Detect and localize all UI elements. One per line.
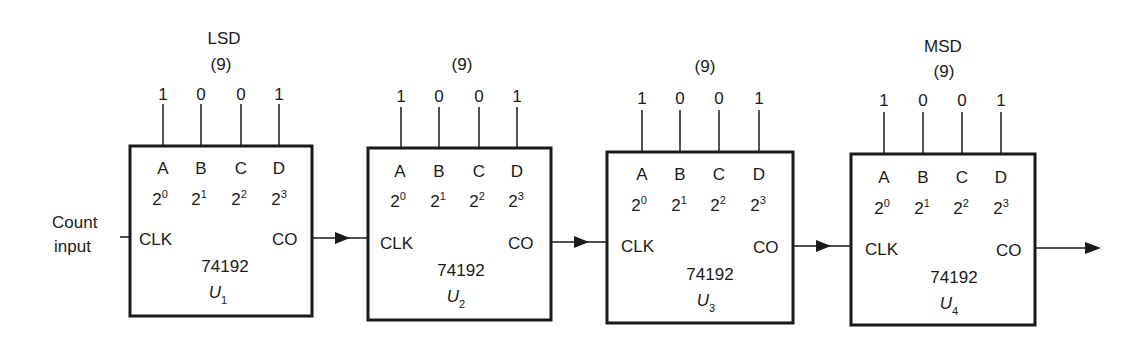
bit-values: 1 0 0 1 (158, 85, 283, 104)
svg-text:D: D (511, 162, 523, 181)
co-label: CO (508, 234, 534, 253)
part-number: 74192 (930, 268, 977, 287)
bit-values: 1 0 0 1 (637, 89, 763, 108)
svg-text:21: 21 (430, 190, 446, 211)
svg-text:0: 0 (474, 87, 483, 106)
svg-text:20: 20 (631, 194, 647, 215)
svg-text:1: 1 (996, 91, 1005, 110)
svg-text:A: A (394, 162, 406, 181)
svg-text:D: D (753, 165, 765, 184)
co-label: CO (272, 230, 298, 249)
svg-text:0: 0 (957, 91, 966, 110)
count-input-label: Count input (52, 213, 98, 256)
svg-text:20: 20 (152, 188, 168, 209)
svg-text:0: 0 (434, 87, 443, 106)
carry-connection-2 (551, 236, 607, 248)
arrow-icon (335, 232, 350, 244)
svg-text:1: 1 (274, 85, 283, 104)
part-number: 74192 (201, 257, 248, 276)
pin-weights: 20 21 22 23 (390, 190, 524, 211)
svg-text:1: 1 (879, 91, 888, 110)
svg-text:1: 1 (512, 87, 521, 106)
input-pins (401, 107, 517, 148)
arrow-icon (574, 236, 589, 248)
value-label: (9) (695, 57, 716, 76)
svg-text:23: 23 (508, 190, 524, 211)
pin-weights: 20 21 22 23 (152, 188, 287, 209)
svg-text:0: 0 (196, 85, 205, 104)
input-pins (642, 110, 759, 152)
svg-text:22: 22 (953, 197, 969, 218)
part-number: 74192 (437, 261, 484, 280)
svg-text:1: 1 (396, 87, 405, 106)
svg-text:Count: Count (52, 213, 98, 232)
ref-designator: U1 (209, 283, 227, 306)
counter-u1: LSD (9) 1 0 0 1 A B C D 20 21 22 23 CLK … (130, 29, 312, 316)
input-pins (884, 112, 1001, 154)
input-pins (163, 104, 279, 146)
svg-text:A: A (636, 165, 648, 184)
ref-designator: U4 (940, 294, 958, 317)
ref-designator: U2 (447, 287, 465, 310)
svg-text:1: 1 (158, 85, 167, 104)
bit-values: 1 0 0 1 (396, 87, 521, 106)
svg-text:23: 23 (750, 194, 766, 215)
clk-label: CLK (621, 237, 655, 256)
svg-text:0: 0 (714, 89, 723, 108)
pin-letters: A B C D (394, 162, 523, 181)
svg-text:21: 21 (671, 194, 687, 215)
ref-designator: U3 (697, 291, 715, 314)
svg-text:B: B (195, 159, 206, 178)
svg-text:1: 1 (754, 89, 763, 108)
svg-text:20: 20 (874, 197, 890, 218)
value-label: (9) (452, 55, 473, 74)
svg-text:B: B (433, 162, 444, 181)
svg-text:input: input (54, 237, 91, 256)
svg-text:B: B (674, 165, 685, 184)
counter-u4: MSD (9) 1 0 0 1 A B C D 20 21 22 23 CLK … (851, 37, 1035, 325)
arrow-icon (816, 240, 831, 252)
svg-text:0: 0 (675, 89, 684, 108)
pin-weights: 20 21 22 23 (874, 197, 1009, 218)
pin-letters: A B C D (636, 165, 765, 184)
bit-values: 1 0 0 1 (879, 91, 1005, 110)
svg-text:C: C (956, 168, 968, 187)
svg-text:21: 21 (191, 188, 207, 209)
counter-u2: (9) 1 0 0 1 A B C D 20 21 22 23 CLK CO 7… (368, 55, 551, 320)
svg-text:21: 21 (914, 197, 930, 218)
arrow-icon (1085, 242, 1101, 254)
pin-letters: A B C D (157, 159, 285, 178)
value-label: (9) (934, 62, 955, 81)
svg-text:D: D (995, 168, 1007, 187)
svg-text:22: 22 (710, 194, 726, 215)
carry-connection-1 (312, 232, 368, 244)
svg-text:1: 1 (637, 89, 646, 108)
svg-text:A: A (157, 159, 169, 178)
clk-label: CLK (380, 234, 414, 253)
svg-text:D: D (273, 159, 285, 178)
part-number: 74192 (686, 265, 733, 284)
value-label: (9) (211, 55, 232, 74)
svg-text:23: 23 (271, 188, 287, 209)
digit-label: LSD (207, 29, 240, 48)
co-label: CO (996, 241, 1022, 260)
svg-text:22: 22 (231, 188, 247, 209)
carry-output (1035, 242, 1101, 254)
clk-label: CLK (865, 240, 899, 259)
svg-text:0: 0 (918, 91, 927, 110)
svg-text:20: 20 (390, 190, 406, 211)
pin-letters: A B C D (878, 168, 1007, 187)
svg-text:C: C (713, 165, 725, 184)
digit-label: MSD (924, 37, 962, 56)
svg-text:B: B (917, 168, 928, 187)
svg-text:23: 23 (993, 197, 1009, 218)
svg-text:A: A (878, 168, 890, 187)
svg-text:C: C (473, 162, 485, 181)
pin-weights: 20 21 22 23 (631, 194, 766, 215)
carry-connection-3 (793, 240, 851, 252)
svg-text:22: 22 (469, 190, 485, 211)
counter-diagram: Count input LSD (9) 1 0 0 1 A B C D 20 2… (0, 0, 1145, 347)
counter-u3: (9) 1 0 0 1 A B C D 20 21 22 23 CLK CO 7… (607, 57, 793, 323)
co-label: CO (753, 238, 779, 257)
svg-text:0: 0 (236, 85, 245, 104)
